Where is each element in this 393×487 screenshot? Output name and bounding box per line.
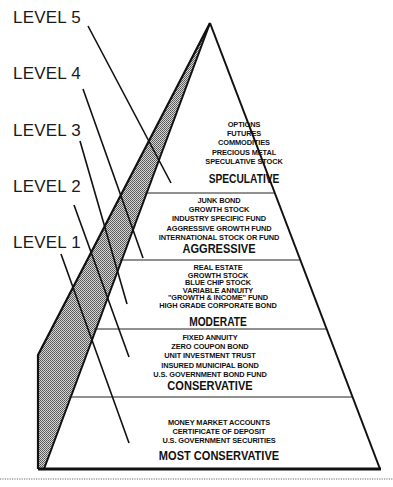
tier-conservative: FIXED ANNUITY ZERO COUPON BOND UNIT INVE… (153, 333, 266, 393)
tier-item: HIGH GRADE CORPORATE BOND (159, 302, 276, 310)
level-3-label: LEVEL 3 (13, 121, 81, 141)
level-2-label: LEVEL 2 (13, 177, 81, 197)
tier-item: PRECIOUS METAL (202, 148, 285, 157)
tier-most-conservative: MONEY MARKET ACCOUNTS CERTIFICATE OF DEP… (148, 418, 290, 463)
tier-title: CONSERVATIVE (162, 379, 258, 393)
level-5-label: LEVEL 5 (13, 8, 81, 28)
tier-title: SPECULATIVE (209, 172, 280, 186)
tier-aggressive: JUNK BOND GROWTH STOCK INDUSTRY SPECIFIC… (159, 196, 279, 256)
tier-item: FUTURES (202, 129, 285, 138)
tier-item: JUNK BOND (159, 196, 279, 205)
tier-item: UNIT INVESTMENT TRUST (153, 351, 266, 360)
tier-title: MODERATE (168, 315, 268, 329)
tier-item: MONEY MARKET ACCOUNTS (148, 418, 290, 427)
tier-item: OPTIONS (202, 120, 285, 129)
tier-title: AGGRESSIVE (168, 242, 270, 256)
tier-item: ZERO COUPON BOND (153, 342, 266, 351)
tier-item: GROWTH STOCK (159, 205, 279, 214)
tier-title: MOST CONSERVATIVE (159, 449, 279, 463)
tier-item: U.S. GOVERNMENT SECURITIES (148, 436, 290, 445)
tier-item: INDUSTRY SPECIFIC FUND (159, 214, 279, 223)
tier-item: CERTIFICATE OF DEPOSIT (148, 427, 290, 436)
tier-moderate: REAL ESTATE GROWTH STOCK BLUE CHIP STOCK… (159, 264, 276, 329)
tier-item: INSURED MUNICIPAL BOND (153, 361, 266, 370)
tier-item: COMMODITIES (202, 138, 285, 147)
leader-line-level-5 (88, 26, 171, 183)
tier-item: SPECULATIVE STOCK (202, 157, 285, 166)
level-4-label: LEVEL 4 (13, 64, 81, 84)
level-1-label: LEVEL 1 (13, 233, 81, 253)
tier-speculative: OPTIONS FUTURES COMMODITIES PRECIOUS MET… (202, 120, 285, 186)
tier-item: FIXED ANNUITY (153, 333, 266, 342)
tier-item: AGGRESSIVE GROWTH FUND (159, 224, 279, 233)
